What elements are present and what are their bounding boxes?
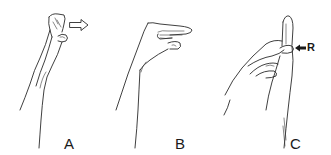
panel-label-c: C — [290, 136, 301, 151]
panel-label-b: B — [175, 136, 185, 151]
resistance-label: R — [307, 42, 315, 53]
panel-b: B — [110, 0, 220, 155]
solid-arrow-left-icon — [220, 0, 331, 155]
panel-a: A — [0, 0, 110, 155]
panel-c: R C — [220, 0, 331, 155]
panel-label-a: A — [64, 136, 74, 151]
hand-flat-profile-drawing — [110, 0, 220, 155]
hand-position-figure: A B — [0, 0, 331, 155]
hollow-arrow-right-icon — [0, 0, 110, 155]
